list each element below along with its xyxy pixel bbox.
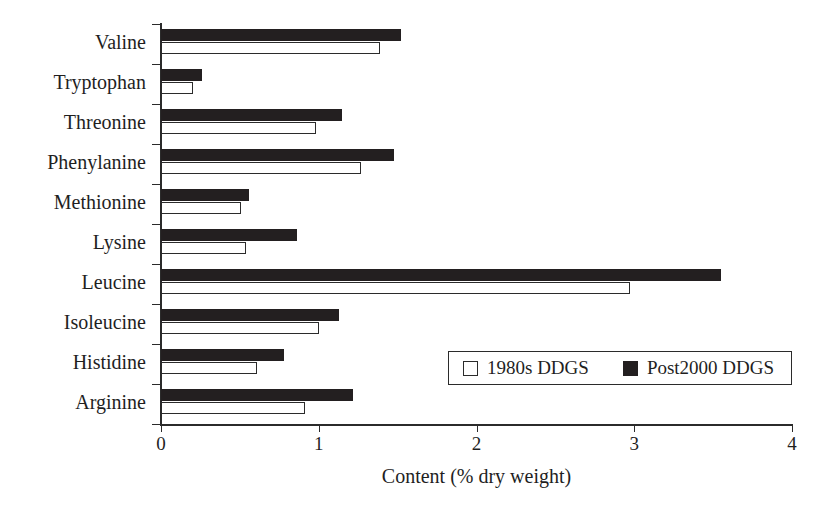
x-axis-tick (319, 424, 320, 432)
legend-label-1980s-ddgs: 1980s DDGS (487, 358, 589, 378)
bar-post2000-leucine (161, 269, 721, 281)
bar-1980s-tryptophan (161, 82, 193, 94)
bar-post2000-threonine (161, 109, 342, 121)
y-axis-label-valine: Valine (95, 31, 146, 53)
x-axis-tick-label-4: 4 (787, 434, 797, 454)
bar-post2000-histidine (161, 349, 284, 361)
bar-1980s-valine (161, 42, 380, 54)
y-axis-tick (152, 264, 161, 265)
filled-square-swatch-icon (623, 361, 638, 376)
bar-post2000-arginine (161, 389, 353, 401)
y-axis-label-arginine: Arginine (75, 391, 146, 413)
y-axis-tick (152, 304, 161, 305)
y-axis-label-lysine: Lysine (93, 231, 146, 253)
y-axis-tick (152, 344, 161, 345)
bar-1980s-isoleucine (161, 322, 319, 334)
open-square-swatch-icon (463, 361, 478, 376)
bar-post2000-isoleucine (161, 309, 339, 321)
bar-post2000-phenylanine (161, 149, 394, 161)
x-axis-tick-label-2: 2 (472, 434, 482, 454)
bar-1980s-histidine (161, 362, 257, 374)
y-axis-tick (152, 144, 161, 145)
y-axis-label-tryptophan: Tryptophan (53, 71, 146, 93)
bar-1980s-arginine (161, 402, 305, 414)
bar-1980s-leucine (161, 282, 630, 294)
bar-chart: ValineTryptophanThreoninePhenylanineMeth… (0, 0, 834, 514)
x-axis-tick (634, 424, 635, 432)
x-axis-tick-label-3: 3 (630, 434, 640, 454)
x-axis-tick-label-0: 0 (156, 434, 166, 454)
bar-post2000-valine (161, 29, 401, 41)
x-axis-ticks: 01234 (161, 424, 792, 468)
y-axis-label-phenylanine: Phenylanine (47, 151, 146, 173)
x-axis-tick-label-1: 1 (314, 434, 324, 454)
legend-entry-1980s-ddgs: 1980s DDGS (463, 358, 589, 378)
y-axis-label-histidine: Histidine (73, 351, 146, 373)
x-axis-tick (477, 424, 478, 432)
bar-post2000-lysine (161, 229, 297, 241)
y-axis-tick (152, 24, 161, 25)
bar-1980s-threonine (161, 122, 316, 134)
y-axis-label-threonine: Threonine (64, 111, 146, 133)
legend-entry-post2000-ddgs: Post2000 DDGS (623, 358, 774, 378)
legend-label-post2000-ddgs: Post2000 DDGS (647, 358, 774, 378)
x-axis-tick (161, 424, 162, 432)
bar-1980s-phenylanine (161, 162, 361, 174)
y-axis-tick (152, 384, 161, 385)
bar-post2000-methionine (161, 189, 249, 201)
bar-1980s-lysine (161, 242, 246, 254)
y-axis-tick (152, 184, 161, 185)
y-axis-label-leucine: Leucine (82, 271, 146, 293)
y-axis-tick (152, 64, 161, 65)
y-axis-label-isoleucine: Isoleucine (64, 311, 146, 333)
x-axis-tick (792, 424, 793, 432)
y-axis-tick (152, 224, 161, 225)
y-axis-label-methionine: Methionine (54, 191, 146, 213)
y-axis-tick (152, 424, 161, 425)
bar-1980s-methionine (161, 202, 241, 214)
y-axis-tick (152, 104, 161, 105)
x-axis-title: Content (% dry weight) (161, 465, 792, 487)
bar-post2000-tryptophan (161, 69, 202, 81)
y-axis-category-labels: ValineTryptophanThreoninePhenylanineMeth… (0, 0, 154, 514)
chart-legend: 1980s DDGS Post2000 DDGS (448, 351, 792, 385)
